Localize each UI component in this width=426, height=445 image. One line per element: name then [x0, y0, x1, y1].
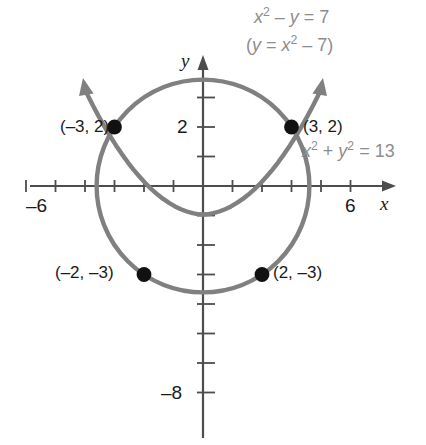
- point-marker-neg3-2: [107, 120, 122, 135]
- point-marker-neg2-neg3: [137, 267, 152, 282]
- x-axis-label: x: [380, 194, 388, 213]
- point-label-2-neg3: (2, –3): [273, 264, 322, 281]
- point-marker-2-neg3: [255, 267, 270, 282]
- y-axis-ticks: [197, 98, 215, 393]
- y-tick-label-2: 2: [177, 117, 188, 136]
- y-tick-label-minus8: –8: [161, 383, 182, 402]
- math-graph-figure: x2 – y = 7 (y = x2 – 7) x2 + y2 = 13 (–3…: [0, 0, 426, 445]
- parabola-right-arrowhead: [312, 78, 327, 96]
- y-axis-label: y: [181, 51, 189, 70]
- y-axis-arrowhead: [198, 55, 209, 70]
- point-label-neg2-neg3: (–2, –3): [55, 264, 114, 281]
- coordinate-plane: [0, 0, 426, 445]
- axis-group: [26, 55, 396, 438]
- parabola-equation-line1: x2 – y = 7: [254, 8, 329, 26]
- x-tick-label-minus6: –6: [26, 196, 47, 215]
- parabola-equation-line2: (y = x2 – 7): [246, 36, 333, 54]
- x-axis-arrowhead: [382, 181, 396, 192]
- point-label-neg3-2: (–3, 2): [60, 118, 109, 135]
- parabola-left-arrowhead: [79, 78, 94, 96]
- point-label-3-2: (3, 2): [303, 118, 343, 135]
- x-tick-label-6: 6: [345, 196, 356, 215]
- point-marker-3-2: [284, 120, 299, 135]
- circle-equation: x2 + y2 = 13: [302, 142, 395, 160]
